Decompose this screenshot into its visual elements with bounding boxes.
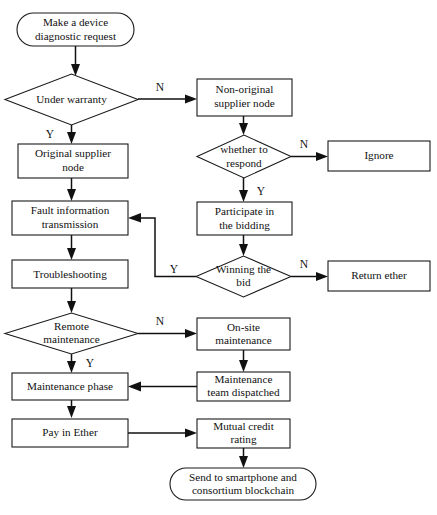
node-troubleshooting-label: Troubleshooting [33,268,107,280]
edge-team-dispatched-to-maint-phase [128,382,197,392]
node-send-to-smartphone[interactable]: Send to smartphone and consortium blockc… [170,468,316,500]
node-non-original-supplier[interactable]: Non-original supplier node [197,79,292,116]
edge-pay-ether-to-mutual-credit [128,429,197,438]
edge-whether-respond-no: N [291,138,328,161]
node-start[interactable]: Make a device diagnostic request [17,13,134,46]
node-whether-respond-line2: respond [226,157,262,169]
edge-participate-to-winning-bid [239,235,248,256]
node-remote-maintenance-line2: maintenance [43,333,100,345]
edge-under-warranty-no: N [138,81,197,104]
edge-label-respond-no: N [300,138,309,150]
node-pay-in-ether-label: Pay in Ether [42,426,98,438]
edge-label-bid-no: N [300,258,309,270]
node-original-supplier[interactable]: Original supplier node [18,144,128,178]
node-winning-the-bid[interactable]: Winning the bid [196,256,291,297]
node-whether-to-respond[interactable]: whether to respond [197,135,291,178]
edge-remote-no: N [138,315,197,338]
node-participate-line1: Participate in [215,205,275,217]
node-remote-maintenance-line1: Remote [54,320,89,332]
node-whether-respond-line1: whether to [220,143,268,155]
node-mutual-credit-line2: rating [230,433,257,445]
node-maintenance-phase-label: Maintenance phase [27,380,113,392]
edge-winning-bid-yes-loop: Y [128,213,196,277]
node-team-dispatched-line1: Maintenance [215,373,273,385]
node-ignore[interactable]: Ignore [328,141,430,171]
node-troubleshooting[interactable]: Troubleshooting [12,260,128,288]
edge-winning-bid-no: N [291,258,328,281]
node-mutual-credit-rating[interactable]: Mutual credit rating [197,419,290,448]
edge-remote-yes: Y [67,354,95,373]
node-onsite-maintenance-line2: maintenance [215,334,272,346]
edge-label-remote-no: N [156,315,165,327]
edge-whether-respond-yes: Y [239,178,266,202]
node-send-phone-line2: consortium blockchain [192,484,295,496]
node-team-dispatched-line2: team dispatched [207,386,280,398]
node-under-warranty-label: Under warranty [36,93,107,105]
node-send-phone-line1: Send to smartphone and [189,471,297,483]
node-participate-in-bidding[interactable]: Participate in the bidding [197,202,292,235]
node-maintenance-team-dispatched[interactable]: Maintenance team dispatched [197,372,290,401]
node-participate-line2: the bidding [219,219,270,231]
edge-fault-info-to-troubleshooting [67,235,76,260]
node-ignore-label: Ignore [364,149,393,161]
node-onsite-maintenance[interactable]: On-site maintenance [197,318,290,350]
edge-non-original-to-whether-respond [239,116,248,135]
node-start-line1: Make a device [43,16,108,28]
node-winning-bid-line2: bid [236,276,251,288]
node-winning-bid-line1: Winning the [216,263,271,275]
node-fault-info-line2: transmission [42,218,99,230]
node-original-supplier-line2: node [62,161,84,173]
edge-label-remote-yes: Y [86,357,95,369]
node-return-ether[interactable]: Return ether [328,261,430,291]
edge-original-to-fault-info [67,178,76,201]
edge-maint-phase-to-pay-ether [67,400,76,418]
edge-start-to-under-warranty [71,46,80,76]
edge-onsite-to-team-dispatched [239,350,248,372]
node-non-original-line1: Non-original [216,83,274,95]
node-return-ether-label: Return ether [351,269,407,281]
node-pay-in-ether[interactable]: Pay in Ether [12,419,128,447]
node-maintenance-phase[interactable]: Maintenance phase [12,373,128,400]
node-fault-information-transmission[interactable]: Fault information transmission [12,201,128,235]
node-onsite-maintenance-line1: On-site [227,321,260,333]
edge-under-warranty-yes: Y [46,125,76,144]
node-remote-maintenance[interactable]: Remote maintenance [5,313,138,354]
edge-label-warranty-no: N [156,81,165,93]
edge-mutual-credit-to-send-phone [239,448,248,468]
node-under-warranty[interactable]: Under warranty [5,74,138,125]
edge-label-bid-yes: Y [170,263,179,275]
edge-label-respond-yes: Y [257,185,266,197]
node-non-original-line2: supplier node [214,97,275,109]
node-mutual-credit-line1: Mutual credit [213,420,274,432]
node-start-line2: diagnostic request [35,30,117,42]
flowchart-diagram: N Y N Y [0,0,437,515]
edge-label-warranty-yes: Y [46,128,55,140]
node-fault-info-line1: Fault information [31,204,110,216]
edge-troubleshooting-to-remote [67,288,76,313]
node-original-supplier-line1: Original supplier [35,147,111,159]
